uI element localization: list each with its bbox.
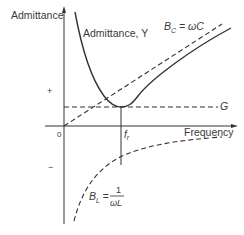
y-axis-label: Admittance [11, 9, 64, 21]
admittance-diagram: Admittance Frequency 0 + − Admittance, Y… [0, 0, 244, 235]
inductive-numerator: 1 [116, 185, 121, 195]
origin-label: 0 [57, 130, 62, 139]
resonance-label: fr [124, 129, 130, 141]
inductive-denominator: ωL [110, 198, 122, 208]
x-axis-label: Frequency [184, 126, 234, 138]
inductive-label: BL = [89, 190, 109, 204]
plus-sign: + [47, 86, 52, 96]
capacitive-label: BC = ωC [164, 20, 204, 34]
conductance-label: G [220, 100, 228, 112]
admittance-curve-label: Admittance, Y [83, 27, 148, 39]
capacitive-susceptance-line [64, 24, 222, 126]
inductive-susceptance-curve [74, 137, 222, 221]
minus-sign: − [48, 162, 53, 172]
